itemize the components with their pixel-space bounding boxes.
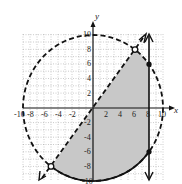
graph: -10 -8 -6 -4 -2 2 4 6 8 10 10 8 6 4 2 -2… <box>0 0 182 184</box>
closed-point-8-6 <box>146 62 151 67</box>
x-tick: 2 <box>104 110 108 119</box>
y-axis-label: y <box>94 11 99 21</box>
y-tick: 6 <box>87 59 91 68</box>
x-tick: -6 <box>41 110 48 119</box>
x-tick: 4 <box>118 110 122 119</box>
x-axis-label: x <box>173 105 178 115</box>
x-tick: -8 <box>27 110 34 119</box>
y-tick: -6 <box>84 147 91 156</box>
x-tick: -4 <box>55 110 62 119</box>
open-point-neg6-neg8 <box>48 164 54 170</box>
y-tick: 10 <box>83 30 91 39</box>
y-tick: -8 <box>84 162 91 171</box>
y-tick: -4 <box>84 133 91 142</box>
y-tick: 2 <box>87 89 91 98</box>
x-tick: 6 <box>132 110 136 119</box>
closed-point-8-neg6 <box>146 149 151 154</box>
y-tick: -2 <box>84 118 91 127</box>
open-point-6-8 <box>132 47 138 53</box>
x-tick: -10 <box>14 110 25 119</box>
y-tick: -10 <box>82 177 93 184</box>
x-tick: 10 <box>158 110 166 119</box>
y-tick: 8 <box>87 45 91 54</box>
y-tick: 4 <box>87 74 91 83</box>
y-axis-arrow-icon <box>91 21 96 27</box>
x-tick: -2 <box>69 110 76 119</box>
x-tick: 8 <box>146 110 150 119</box>
line-arrow-bottom-icon <box>39 171 46 180</box>
